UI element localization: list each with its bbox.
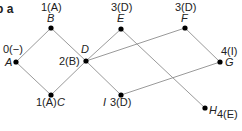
- edge-e-h: [121, 29, 205, 108]
- node-c-name: C: [57, 96, 65, 108]
- node-f: [182, 25, 187, 30]
- edge-f-g: [185, 28, 220, 62]
- node-g-name: G: [225, 56, 234, 68]
- edge-d-i: [86, 61, 121, 95]
- node-a: [13, 59, 18, 64]
- node-c-value: 1(A): [36, 96, 57, 108]
- node-h: [202, 105, 207, 110]
- node-h-name: H: [209, 104, 217, 116]
- edge-a-c: [16, 62, 51, 95]
- node-f-name: F: [181, 12, 189, 24]
- node-g: [217, 59, 222, 64]
- node-i-name: I: [103, 96, 106, 108]
- node-e-name: E: [117, 12, 125, 24]
- node-h-subscript: 4(E): [217, 108, 238, 120]
- node-d-value: 2(B): [59, 55, 80, 67]
- node-d: [83, 58, 88, 63]
- node-a-name: A: [4, 56, 12, 68]
- edge-d-f: [86, 28, 185, 61]
- node-e: [118, 26, 123, 31]
- edge-i-g: [121, 62, 220, 95]
- edge-d-e: [86, 29, 121, 61]
- node-b: [48, 25, 53, 30]
- shortest-path-graph: 0(−) A 1(A) B 1(A) C D 2(B) 3(D) E 3(D) …: [0, 0, 242, 131]
- node-i-value: 3(D): [110, 96, 131, 108]
- node-a-value: 0(−): [3, 43, 23, 55]
- node-d-name: D: [81, 43, 89, 55]
- node-b-name: B: [47, 12, 54, 24]
